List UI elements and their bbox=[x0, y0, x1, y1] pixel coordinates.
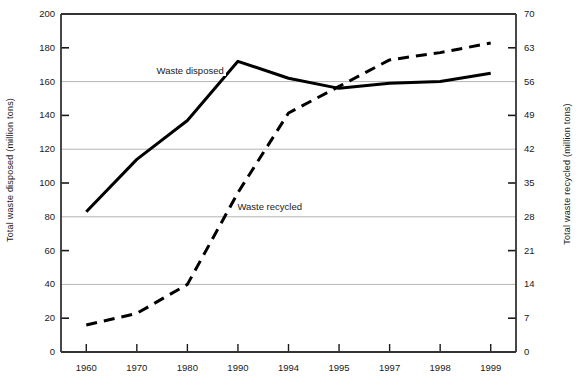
x-tick-label: 1999 bbox=[466, 362, 516, 373]
right-tick-label: 0 bbox=[524, 346, 558, 357]
left-tick-label: 20 bbox=[21, 312, 55, 323]
left-tick-label: 200 bbox=[21, 8, 55, 19]
right-tick-label: 21 bbox=[524, 245, 558, 256]
x-tick-label: 1960 bbox=[61, 362, 111, 373]
series-label: Waste disposed bbox=[155, 65, 226, 76]
right-axis-ticks bbox=[508, 48, 516, 318]
right-tick-label: 63 bbox=[524, 42, 558, 53]
left-tick-label: 160 bbox=[21, 76, 55, 87]
x-tick-label: 1990 bbox=[213, 362, 263, 373]
left-tick-label: 80 bbox=[21, 211, 55, 222]
right-tick-label: 28 bbox=[524, 211, 558, 222]
right-tick-label: 35 bbox=[524, 177, 558, 188]
x-tick-label: 1980 bbox=[162, 362, 212, 373]
waste-chart-figure: Total waste disposed (million tons) Tota… bbox=[0, 0, 581, 389]
left-tick-label: 140 bbox=[21, 109, 55, 120]
left-tick-label: 120 bbox=[21, 143, 55, 154]
y-axis-right-title: Total waste recycled (million tons) bbox=[556, 0, 578, 348]
x-tick-label: 1995 bbox=[314, 362, 364, 373]
left-tick-label: 100 bbox=[21, 177, 55, 188]
left-tick-label: 180 bbox=[21, 42, 55, 53]
right-tick-label: 70 bbox=[524, 8, 558, 19]
x-tick-label: 1998 bbox=[415, 362, 465, 373]
left-tick-label: 60 bbox=[21, 245, 55, 256]
data-series bbox=[86, 43, 490, 325]
x-tick-label: 1997 bbox=[365, 362, 415, 373]
x-axis-ticks bbox=[86, 344, 490, 352]
right-tick-label: 49 bbox=[524, 109, 558, 120]
left-axis-ticks bbox=[61, 48, 69, 318]
left-tick-label: 0 bbox=[21, 346, 55, 357]
x-tick-label: 1970 bbox=[112, 362, 162, 373]
right-tick-label: 7 bbox=[524, 312, 558, 323]
left-tick-label: 40 bbox=[21, 278, 55, 289]
x-tick-label: 1994 bbox=[264, 362, 314, 373]
right-tick-label: 14 bbox=[524, 278, 558, 289]
series-label: Waste recycled bbox=[235, 201, 304, 212]
chart-plot-area bbox=[0, 0, 581, 389]
axis-frame bbox=[61, 14, 516, 352]
y-axis-left-title: Total waste disposed (million tons) bbox=[0, 0, 20, 340]
right-tick-label: 56 bbox=[524, 76, 558, 87]
right-tick-label: 42 bbox=[524, 143, 558, 154]
